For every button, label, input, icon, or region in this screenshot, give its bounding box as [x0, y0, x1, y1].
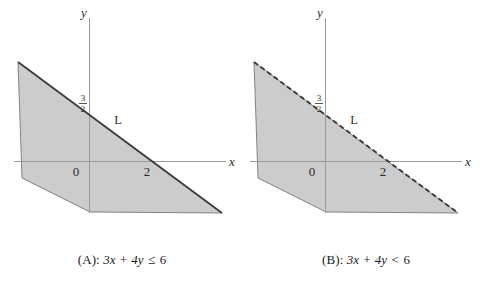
- tick-label-y-three-halves-b: 3 2: [315, 93, 323, 114]
- caption-b-rhs: 6: [403, 252, 410, 267]
- fraction-numerator-b: 3: [317, 93, 322, 103]
- tick-label-origin-b: 0: [309, 164, 316, 179]
- caption-b-label: (B):: [322, 252, 343, 267]
- caption-a: (A): 3x + 4y ≤ 6: [0, 252, 244, 268]
- tick-label-origin-a: 0: [73, 164, 80, 179]
- caption-a-expression: 3x + 4y: [103, 252, 144, 267]
- line-label-b: L: [350, 113, 358, 127]
- tick-label-x2-a: 2: [144, 164, 151, 179]
- panel-b: y x 0 2 3 2 L (B): 3x + 4y < 6: [244, 0, 488, 298]
- y-axis-label-a: y: [79, 5, 87, 20]
- x-axis-label-a: x: [228, 154, 235, 169]
- line-label-a: L: [114, 113, 122, 127]
- panel-a: y x 0 2 3 2 L (A): 3x + 4y ≤ 6: [0, 0, 244, 298]
- caption-a-rhs: 6: [160, 252, 167, 267]
- tick-label-x2-b: 2: [380, 164, 387, 179]
- fraction-numerator-a: 3: [81, 93, 86, 103]
- panel-b-plot: y x 0 2 3 2 L: [244, 0, 488, 248]
- x-axis-label-b: x: [464, 154, 471, 169]
- caption-a-relation: ≤: [147, 252, 156, 267]
- y-axis-label-b: y: [315, 5, 323, 20]
- panel-a-plot: y x 0 2 3 2 L: [0, 0, 244, 248]
- figure-container: y x 0 2 3 2 L (A): 3x + 4y ≤ 6: [0, 0, 488, 298]
- fraction-denominator-b: 2: [317, 104, 322, 114]
- caption-b: (B): 3x + 4y < 6: [244, 252, 488, 268]
- caption-b-expression: 3x + 4y: [347, 252, 388, 267]
- tick-label-y-three-halves-a: 3 2: [79, 93, 87, 114]
- fraction-denominator-a: 2: [81, 104, 86, 114]
- caption-a-label: (A):: [78, 252, 100, 267]
- caption-b-relation: <: [391, 252, 400, 267]
